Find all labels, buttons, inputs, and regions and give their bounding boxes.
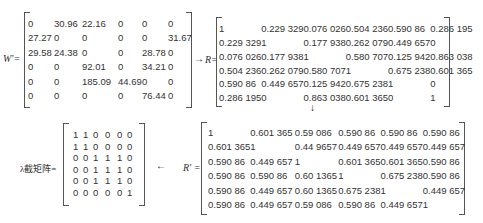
matrix-row: 10.229 3290.076 0260.504 2360.590 860.28… xyxy=(219,22,473,36)
matrix-cell: 1 xyxy=(93,164,105,176)
matrix-rprime-table: 10.601 3650.59 0860.590 860.590 860.590 … xyxy=(208,125,465,212)
matrix-row: 29.5824.380028.780 xyxy=(28,45,192,60)
matrix-cell: 0.504 236 xyxy=(219,63,261,77)
matrix-cell: 0 xyxy=(73,164,83,176)
matrix-cell: 0.286 195 xyxy=(430,22,472,36)
matrix-row: 001110 xyxy=(73,152,137,164)
matrix-cell: 0 xyxy=(117,187,127,199)
matrix-row: 0.504 2360.262 0790.580 70710.675 2380.6… xyxy=(219,63,473,77)
matrix-cell: 185.09 xyxy=(82,74,118,89)
matrix-cell: 0.60 1365 xyxy=(295,169,338,184)
matrix-cell: 0.177 938 xyxy=(261,50,303,64)
matrix-row: 27.27000031.67 xyxy=(28,31,192,46)
matrix-cell: 0.076 026 xyxy=(304,22,346,36)
matrix-cell: 0 xyxy=(105,141,117,153)
matrix-cell: 0 xyxy=(118,89,142,104)
matrix-cell: 34.21 xyxy=(142,60,168,75)
matrix-cell: 1 xyxy=(208,125,250,140)
matrix-cell: 0.449 657 xyxy=(338,140,380,155)
matrix-cell: 0.449 657 xyxy=(423,140,465,155)
matrix-cell: 1 xyxy=(105,164,117,176)
matrix-cell: 0.125 942 xyxy=(388,50,430,64)
matrix-cell: 0.590 86 xyxy=(423,169,465,184)
matrix-cell: 0 xyxy=(142,74,168,89)
matrix-cell: 1 xyxy=(338,169,380,184)
matrix-cell: 1 xyxy=(250,140,295,155)
matrix-cell: 0 xyxy=(28,89,54,104)
matrix-cell: 1 xyxy=(117,164,127,176)
matrix-row: 10.601 3650.59 0860.590 860.590 860.590 … xyxy=(208,125,465,140)
matrix-cell: 0.601 365 xyxy=(250,125,295,140)
matrix-cell: 1 xyxy=(83,141,93,153)
matrix-cell: 30.96 xyxy=(54,16,82,31)
matrix-cell: 28.78 xyxy=(142,45,168,60)
matrix-row: 0.076 0260.177 93810.580 7070.125 9420.8… xyxy=(219,50,473,64)
matrix-cell: 24.38 xyxy=(54,45,82,60)
matrix-cell: 0 xyxy=(118,31,142,46)
matrix-cell: 1 xyxy=(73,141,83,153)
arrow-right-icon: → xyxy=(194,53,204,64)
arrow-left-icon: ← xyxy=(156,160,166,171)
matrix-row: 0.590 860.449 65710.601 3650.601 3650.59… xyxy=(208,154,465,169)
arrow-down-icon: ↓ xyxy=(310,102,315,113)
matrix-cell: 1 xyxy=(261,36,303,50)
matrix-row: 0.601 36510.44 96570.449 6570.449 6570.4… xyxy=(208,140,465,155)
matrix-lambda: 110000110000001110001110001110000001 xyxy=(63,123,145,206)
matrix-cell: 0.449 657 xyxy=(250,154,295,169)
matrix-cell: 1 xyxy=(219,22,261,36)
matrix-cell: 0 xyxy=(430,77,472,91)
matrix-cell: 92.01 xyxy=(82,60,118,75)
matrix-cell: 29.58 xyxy=(28,45,54,60)
matrix-rprime-label: R' = xyxy=(183,162,201,173)
matrix-cell: 0 xyxy=(93,187,105,199)
matrix-cell: 0.580 707 xyxy=(346,50,388,64)
matrix-cell: 0 xyxy=(127,141,137,153)
matrix-cell: 0 xyxy=(54,60,82,75)
matrix-row: 110000 xyxy=(73,129,137,141)
matrix-w-table: 030.9622.1600027.27000031.6729.5824.3800… xyxy=(28,16,192,103)
matrix-cell: 0.590 86 xyxy=(208,169,250,184)
matrix-cell: 0.601 365 xyxy=(346,91,388,105)
matrix-cell: 76.44 xyxy=(142,89,168,104)
matrix-cell: 0.286 195 xyxy=(219,91,261,105)
matrix-cell: 0.59 086 xyxy=(295,125,338,140)
matrix-row: 0.590 860.449 6570.59 0860.590 860.449 6… xyxy=(208,198,465,213)
matrix-cell: 0 xyxy=(83,175,93,187)
matrix-cell: 0.229 329 xyxy=(219,36,261,50)
left-bracket xyxy=(201,122,207,215)
matrix-cell: 1 xyxy=(430,91,472,105)
matrix-cell: 0.449 657 xyxy=(388,36,430,50)
matrix-row: 0092.01034.210 xyxy=(28,60,192,75)
matrix-cell: 0 xyxy=(54,74,82,89)
matrix-cell: 0.590 86 xyxy=(423,154,465,169)
matrix-cell: 0 xyxy=(127,175,137,187)
matrix-cell: 44.69 xyxy=(118,74,142,89)
matrix-cell: 0.60 1365 xyxy=(295,183,338,198)
matrix-cell: 0.590 86 xyxy=(219,77,261,91)
matrix-row: 0.229 32910.177 9380.262 0790.449 6570 xyxy=(219,36,473,50)
matrix-cell: 0.177 938 xyxy=(304,36,346,50)
matrix-cell: 1 xyxy=(93,152,105,164)
matrix-cell: 0.504 236 xyxy=(346,22,388,36)
matrix-cell: 0.601 365 xyxy=(208,140,250,155)
matrix-cell: 31.67 xyxy=(168,31,192,46)
matrix-cell: 0.601 365 xyxy=(380,154,422,169)
matrix-cell: 1 xyxy=(346,63,388,77)
matrix-row: 00185.0944.6900 xyxy=(28,74,192,89)
matrix-row: 0.590 860.449 6570.60 13650.675 23810.44… xyxy=(208,183,465,198)
matrix-cell: 0.590 86 xyxy=(423,125,465,140)
matrix-cell: 0.580 707 xyxy=(304,63,346,77)
matrix-cell: 0 xyxy=(168,74,192,89)
matrix-cell: 1 xyxy=(73,129,83,141)
matrix-cell: 0 xyxy=(127,164,137,176)
matrix-cell: 0 xyxy=(117,141,127,153)
matrix-row: 001110 xyxy=(73,164,137,176)
matrix-cell: 0 xyxy=(82,31,118,46)
matrix-cell: 0.590 86 xyxy=(208,183,250,198)
right-bracket xyxy=(139,123,145,206)
matrix-cell: 0 xyxy=(168,60,192,75)
matrix-cell: 0 xyxy=(388,91,430,105)
matrix-w-label: W'= xyxy=(3,53,20,64)
matrix-cell: 0 xyxy=(83,187,93,199)
matrix-cell: 0.076 026 xyxy=(219,50,261,64)
